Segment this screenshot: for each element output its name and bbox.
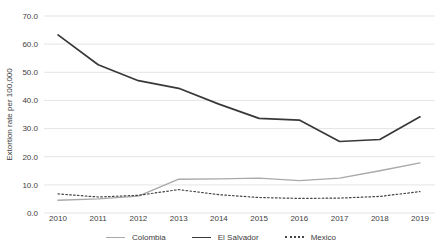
y-tick-label: 70.0: [22, 12, 38, 21]
legend-label-el-salvador: El Salvador: [218, 233, 259, 242]
x-tick-label: 2011: [90, 214, 108, 223]
legend: Colombia El Salvador Mexico: [0, 230, 442, 244]
legend-item-el-salvador: El Salvador: [192, 233, 259, 242]
y-tick-label: 40.0: [22, 96, 38, 105]
legend-item-colombia: Colombia: [106, 233, 166, 242]
y-tick-label: 50.0: [22, 68, 38, 77]
x-tick-label: 2012: [130, 214, 148, 223]
plot-area: 0.010.020.030.040.050.060.070.0201020112…: [0, 0, 442, 228]
y-tick-label: 30.0: [22, 124, 38, 133]
x-tick-label: 2014: [210, 214, 228, 223]
x-tick-label: 2017: [331, 214, 349, 223]
extortion-rate-line-chart: Extortion rate per 100,000 0.010.020.030…: [0, 0, 442, 247]
x-tick-label: 2016: [290, 214, 308, 223]
legend-item-mexico: Mexico: [285, 233, 336, 242]
legend-label-colombia: Colombia: [132, 233, 166, 242]
x-tick-label: 2015: [250, 214, 268, 223]
el-salvador-line-swatch: [192, 237, 211, 238]
y-tick-label: 10.0: [22, 181, 38, 190]
x-tick-label: 2018: [371, 214, 389, 223]
colombia-line-swatch: [106, 237, 125, 238]
series-line-el-salvador: [58, 35, 420, 142]
series-line-mexico: [58, 190, 420, 199]
x-tick-label: 2010: [49, 214, 67, 223]
y-tick-label: 60.0: [22, 40, 38, 49]
mexico-line-swatch: [285, 236, 304, 238]
x-tick-label: 2019: [411, 214, 429, 223]
series-line-colombia: [58, 163, 420, 200]
y-tick-label: 20.0: [22, 153, 38, 162]
y-tick-label: 0.0: [27, 209, 39, 218]
x-tick-label: 2013: [170, 214, 188, 223]
legend-label-mexico: Mexico: [311, 233, 336, 242]
